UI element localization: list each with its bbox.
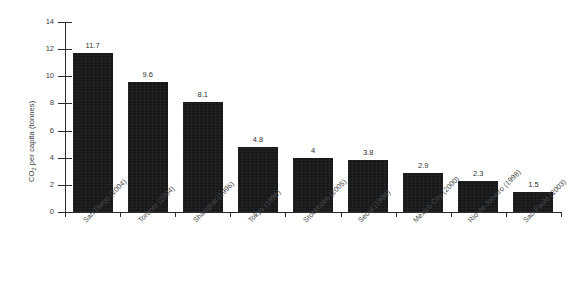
y-axis-tick-label: 0 [50, 206, 54, 217]
bar: 11.7 [73, 53, 113, 212]
y-axis-title-prefix: CO [27, 171, 36, 182]
co2-per-capita-bar-chart: CO2 per capita (tonnes) 02468101214 11.7… [0, 0, 586, 293]
bar-value-label: 11.7 [86, 41, 100, 51]
y-axis-tick: 8 [58, 103, 72, 104]
y-axis-tick-label: 8 [50, 97, 54, 108]
y-axis-tick: 6 [58, 131, 72, 132]
y-axis-tick-label: 12 [46, 43, 54, 54]
bar-value-label: 3.8 [363, 148, 373, 158]
x-axis-tick [506, 212, 507, 217]
y-axis-spine [65, 22, 66, 212]
bar-value-label: 4 [311, 146, 315, 156]
x-axis-tick [175, 212, 176, 217]
y-axis-tick-label: 10 [46, 70, 54, 81]
plot-area: 02468101214 11.79.68.14.843.82.92.31.5 [65, 22, 561, 212]
y-axis-tick: 4 [58, 158, 72, 159]
x-axis-tick [285, 212, 286, 217]
bar-value-label: 9.6 [142, 70, 152, 80]
y-axis-title: CO2 per capita (tonnes) [25, 62, 39, 182]
y-axis-tick: 10 [58, 76, 72, 77]
y-axis-tick-label: 2 [50, 179, 54, 190]
x-axis-category-labels: San Diego (2004)Toronto (2004)Shanghai (… [65, 218, 561, 293]
bar-value-label: 4.8 [253, 135, 263, 145]
x-axis-tick [561, 212, 562, 217]
x-axis-tick [230, 212, 231, 217]
x-axis-tick [396, 212, 397, 217]
x-axis-tick [451, 212, 452, 217]
y-axis-title-subscript: 2 [31, 167, 37, 170]
bar-value-label: 2.3 [473, 169, 483, 179]
y-axis-tick: 2 [58, 185, 72, 186]
bar-value-label: 2.9 [418, 161, 428, 171]
y-axis-title-rest: per capita (tonnes) [27, 101, 36, 165]
bar-value-label: 1.5 [528, 180, 538, 190]
y-axis-tick: 12 [58, 49, 72, 50]
y-axis-tick: 14 [58, 22, 72, 23]
bar-value-label: 8.1 [198, 90, 208, 100]
x-axis-tick [65, 212, 66, 217]
y-axis-tick-label: 4 [50, 152, 54, 163]
y-axis-tick-label: 6 [50, 125, 54, 136]
x-axis-tick [341, 212, 342, 217]
x-axis-tick [120, 212, 121, 217]
y-axis-tick-label: 14 [46, 16, 54, 27]
